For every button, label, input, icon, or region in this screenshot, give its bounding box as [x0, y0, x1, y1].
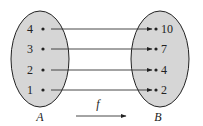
dot-icon [41, 47, 44, 50]
domain-element-2: 2 [27, 63, 33, 77]
function-mapping-diagram: 4 3 2 1 10 7 4 2 f A B [0, 0, 203, 126]
codomain-element-4: 4 [161, 63, 167, 77]
dot-icon [154, 88, 157, 91]
set-b-label: B [154, 110, 162, 124]
dot-icon [154, 27, 157, 30]
dot-icon [41, 27, 44, 30]
dot-icon [154, 68, 157, 71]
function-label: f [96, 97, 101, 111]
dot-icon [41, 68, 44, 71]
set-a-ellipse [11, 11, 69, 107]
domain-element-3: 3 [27, 42, 33, 56]
set-b-ellipse [131, 11, 189, 107]
dot-icon [41, 88, 44, 91]
codomain-element-2: 2 [161, 83, 167, 97]
codomain-element-10: 10 [161, 22, 173, 36]
domain-element-1: 1 [27, 83, 33, 97]
set-a-label: A [35, 110, 44, 124]
dot-icon [154, 47, 157, 50]
codomain-element-7: 7 [161, 42, 167, 56]
domain-element-4: 4 [27, 22, 33, 36]
